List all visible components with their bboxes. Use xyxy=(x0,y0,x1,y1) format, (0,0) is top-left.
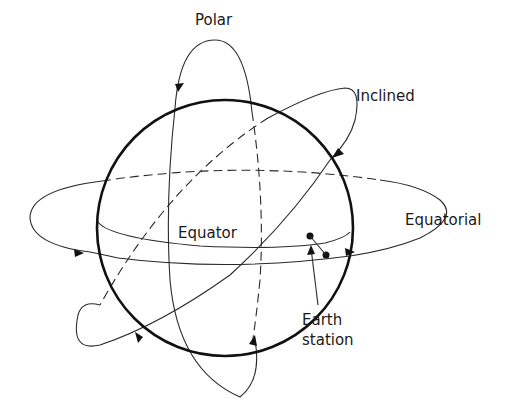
inclined-orbit-upper xyxy=(268,88,357,160)
earth-station-pointer xyxy=(311,248,318,305)
equatorial-orbit-left xyxy=(30,181,118,258)
earth-station-pointer-arrow xyxy=(307,245,315,255)
polar-orbit-back xyxy=(252,112,261,345)
earth-station-label-line1: Earth xyxy=(302,312,342,329)
inclined-arrow-bottom xyxy=(135,332,143,343)
polar-arrow-top xyxy=(175,83,184,92)
orbit-diagram xyxy=(0,0,516,412)
equator-label: Equator xyxy=(178,225,237,242)
equatorial-orbit-back xyxy=(102,170,380,181)
inclined-label: Inclined xyxy=(356,88,415,105)
inclined-orbit-front xyxy=(76,160,330,346)
earth-station-label-line2: station xyxy=(302,332,354,349)
polar-label: Polar xyxy=(195,12,232,29)
equatorial-label: Equatorial xyxy=(405,212,481,229)
equatorial-orbit-front xyxy=(118,256,350,265)
inclined-arrow-top xyxy=(332,148,344,158)
